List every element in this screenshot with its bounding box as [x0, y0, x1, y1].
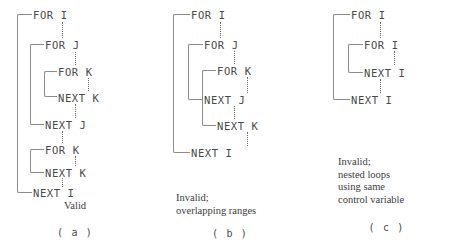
code-row: NEXT I [364, 68, 406, 79]
panel-a: FOR IFOR JFOR KNEXT KNEXT JFOR KNEXT KNE… [0, 0, 150, 251]
panel-label-c: ( c ) [310, 222, 463, 233]
statement-ellipsis [75, 52, 76, 65]
statement-ellipsis [75, 104, 76, 118]
statement-ellipsis [394, 51, 395, 65]
statement-ellipsis [75, 156, 76, 166]
code-row: FOR K [217, 66, 252, 77]
statement-ellipsis [234, 51, 235, 64]
code-row: FOR K [58, 67, 93, 78]
caption-a: Valid [0, 200, 150, 213]
caption-line: control variable [338, 194, 404, 207]
code-row: NEXT K [217, 121, 259, 132]
statement-ellipsis [62, 178, 63, 187]
code-row: NEXT K [45, 168, 87, 179]
diagram-b: FOR IFOR JFOR KNEXT JNEXT KNEXT I [150, 0, 310, 205]
caption-line: overlapping ranges [176, 205, 256, 218]
loop-bracket [348, 44, 363, 73]
code-row: FOR I [351, 10, 386, 21]
code-row: FOR I [191, 10, 226, 21]
caption-line: Valid [0, 200, 150, 213]
caption-line: Invalid; [338, 156, 404, 169]
code-row: FOR J [45, 40, 80, 51]
caption-line: using same [338, 181, 404, 194]
loop-bracket [44, 71, 57, 97]
statement-ellipsis [234, 106, 235, 119]
statement-ellipsis [62, 131, 63, 143]
statement-ellipsis [380, 22, 381, 38]
panel-label-b: ( b ) [150, 228, 310, 239]
code-row: NEXT J [45, 120, 87, 131]
statement-ellipsis [380, 79, 381, 93]
panel-label-a: ( a ) [0, 227, 150, 238]
loop-bracket [30, 44, 44, 125]
statement-ellipsis [220, 22, 221, 38]
code-row: FOR I [364, 40, 399, 51]
loop-bracket [30, 149, 44, 173]
loop-bracket [188, 44, 203, 100]
code-row: NEXT I [351, 95, 393, 106]
code-row: NEXT K [58, 93, 100, 104]
code-row: FOR J [204, 40, 239, 51]
code-row: NEXT I [33, 188, 75, 199]
code-row: FOR K [45, 145, 80, 156]
caption-line: Invalid; [176, 192, 256, 205]
caption-c: Invalid;nested loopsusing samecontrol va… [310, 156, 404, 206]
diagram-a: FOR IFOR JFOR KNEXT KNEXT JFOR KNEXT KNE… [0, 0, 150, 205]
statement-ellipsis [88, 78, 89, 91]
panel-b: FOR IFOR JFOR KNEXT JNEXT KNEXT I Invali… [150, 0, 310, 251]
caption-b: Invalid;overlapping ranges [150, 192, 256, 217]
statement-ellipsis [62, 22, 63, 38]
code-row: NEXT I [191, 148, 233, 159]
panel-c: FOR IFOR INEXT INEXT I Invalid;nested lo… [310, 0, 463, 251]
statement-ellipsis [247, 132, 248, 146]
loop-nesting-figure: FOR IFOR JFOR KNEXT KNEXT JFOR KNEXT KNE… [0, 0, 463, 251]
statement-ellipsis [247, 77, 248, 93]
caption-line: nested loops [338, 169, 404, 182]
code-row: NEXT J [204, 95, 246, 106]
code-row: FOR I [33, 10, 68, 21]
